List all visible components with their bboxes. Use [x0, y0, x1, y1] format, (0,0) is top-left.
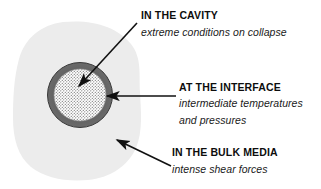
callout-cavity-title: IN THE CAVITY	[141, 9, 287, 21]
bubble-cavity-interior	[54, 69, 106, 121]
callout-interface-description-line-1: intermediate temperatures	[179, 97, 303, 110]
callout-interface-description-line-2: and pressures	[179, 114, 303, 127]
callout-cavity-description: extreme conditions on collapse	[141, 26, 287, 39]
callout-cavity: IN THE CAVITY extreme conditions on coll…	[141, 9, 287, 39]
figure-canvas: IN THE CAVITY extreme conditions on coll…	[0, 0, 321, 189]
callout-bulk-media-title: IN THE BULK MEDIA	[172, 146, 278, 158]
callout-interface: AT THE INTERFACE intermediate temperatur…	[179, 81, 303, 126]
callout-bulk-media: IN THE BULK MEDIA intense shear forces	[172, 146, 278, 176]
callout-bulk-media-description: intense shear forces	[172, 163, 278, 176]
callout-interface-title: AT THE INTERFACE	[179, 81, 303, 93]
